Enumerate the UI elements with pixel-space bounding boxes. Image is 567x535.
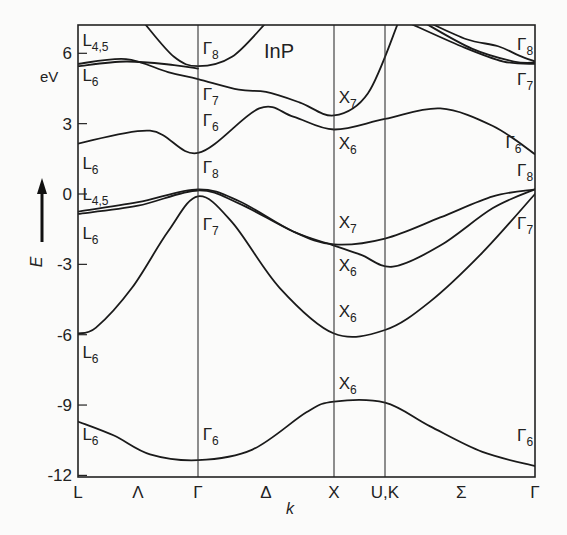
x-axis-label: k bbox=[286, 500, 295, 517]
x-tick-label: Γ bbox=[193, 483, 202, 502]
symmetry-point-label: Γ8 bbox=[203, 158, 219, 181]
chart-title: InP bbox=[264, 40, 294, 62]
x-tick-label: Λ bbox=[132, 483, 144, 502]
y-tick-label: -3 bbox=[57, 255, 72, 274]
symmetry-point-label: Γ7 bbox=[203, 85, 219, 108]
y-unit-label: eV bbox=[40, 68, 58, 85]
symmetry-point-label: Γ7 bbox=[517, 214, 533, 237]
x-tick-label: Σ bbox=[456, 483, 467, 502]
symmetry-point-label: X7 bbox=[339, 213, 357, 236]
symmetry-point-label: L6 bbox=[82, 154, 98, 177]
band-curve bbox=[78, 400, 535, 466]
y-axis-label: E bbox=[28, 256, 45, 267]
symmetry-point-label: Γ6 bbox=[203, 111, 219, 134]
band-curves bbox=[78, 23, 535, 466]
symmetry-point-label: Γ8 bbox=[517, 35, 533, 58]
energy-arrow-icon bbox=[37, 178, 47, 242]
symmetry-point-label: Γ7 bbox=[203, 215, 219, 238]
symmetry-point-label: L6 bbox=[82, 66, 98, 89]
symmetry-point-labels: L4,5L6L6L4,5L6L6L6Γ8Γ7Γ6Γ8Γ7Γ6X7X6X7X6X6… bbox=[82, 31, 533, 449]
symmetry-point-label: Γ6 bbox=[517, 426, 533, 449]
y-tick-label: 3 bbox=[63, 115, 72, 134]
x-tick-label: U,K bbox=[371, 483, 400, 502]
band-curve bbox=[78, 107, 535, 155]
band-structure-chart: 630-3-6-9-12 LΛΓΔXU,KΣΓ L4,5L6L6L4,5L6L6… bbox=[0, 0, 567, 535]
y-axis-ticks: 630-3-6-9-12 bbox=[47, 44, 87, 485]
x-tick-label: Δ bbox=[260, 483, 271, 502]
symmetry-point-label: X7 bbox=[339, 88, 357, 111]
symmetry-point-label: L6 bbox=[82, 224, 98, 247]
symmetry-point-label: Γ8 bbox=[517, 161, 533, 184]
symmetry-point-label: L6 bbox=[82, 343, 98, 366]
symmetry-point-label: Γ6 bbox=[505, 133, 521, 156]
symmetry-point-label: L4,5 bbox=[82, 185, 108, 208]
y-tick-label: 0 bbox=[63, 185, 72, 204]
symmetry-point-label: L4,5 bbox=[82, 31, 108, 54]
y-tick-label: -6 bbox=[57, 326, 72, 345]
plot-frame bbox=[78, 25, 535, 477]
band-curve bbox=[78, 61, 198, 68]
symmetry-point-label: X6 bbox=[339, 256, 357, 279]
symmetry-point-label: X6 bbox=[339, 374, 357, 397]
y-tick-label: -9 bbox=[57, 396, 72, 415]
symmetry-point-label: X6 bbox=[339, 134, 357, 157]
symmetry-point-label: X6 bbox=[339, 302, 357, 325]
y-tick-label: 6 bbox=[63, 44, 72, 63]
symmetry-point-label: Γ8 bbox=[203, 39, 219, 62]
symmetry-point-label: Γ6 bbox=[203, 425, 219, 448]
y-tick-label: -12 bbox=[47, 466, 72, 485]
x-axis-ticks: LΛΓΔXU,KΣΓ bbox=[73, 483, 539, 502]
x-tick-label: Γ bbox=[530, 483, 539, 502]
x-tick-label: L bbox=[73, 483, 82, 502]
x-tick-label: X bbox=[328, 483, 339, 502]
band-curve bbox=[78, 194, 535, 337]
high-symmetry-lines bbox=[198, 25, 385, 477]
symmetry-point-label: Γ7 bbox=[517, 70, 533, 93]
